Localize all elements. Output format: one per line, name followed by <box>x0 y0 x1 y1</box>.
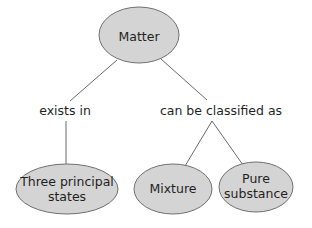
edge-classified-to-mixture <box>185 121 212 166</box>
node-matter: Matter <box>99 7 179 63</box>
edge-classified-to-pure-substance <box>212 121 243 165</box>
node-mixture: Mixture <box>134 164 212 214</box>
edge-matter-to-exists-in <box>70 60 117 101</box>
edge-label-can-be-classified-as: can be classified as <box>160 103 282 118</box>
node-pure-substance: Pure substance <box>219 162 293 212</box>
edge-label-exists-in: exists in <box>39 103 91 118</box>
node-pure-substance-line-1: Pure <box>242 171 270 186</box>
node-matter-label: Matter <box>118 29 160 44</box>
edge-matter-to-can-be-classified-as <box>161 59 207 100</box>
concept-map-diagram: Matter exists in can be classified as Th… <box>0 0 312 228</box>
node-three-principal-states: Three principal states <box>16 164 118 214</box>
node-mixture-label: Mixture <box>149 181 196 196</box>
node-three-principal-states-line-2: states <box>48 189 86 204</box>
node-three-principal-states-line-1: Three principal <box>19 174 114 189</box>
node-pure-substance-line-2: substance <box>224 186 288 201</box>
